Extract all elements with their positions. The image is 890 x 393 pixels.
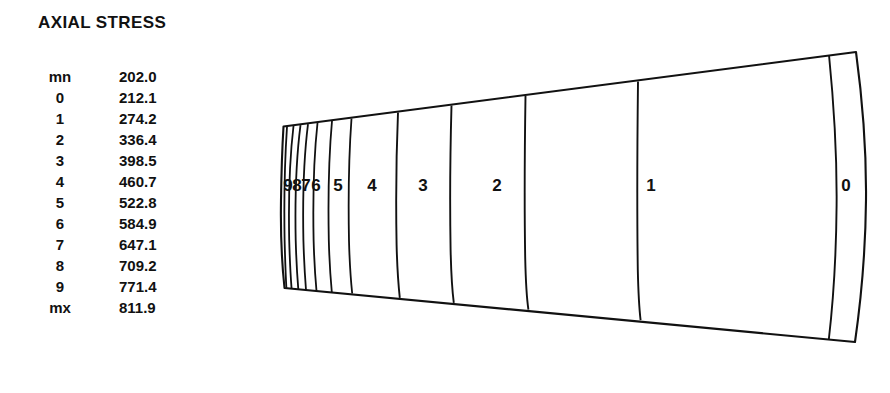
band-label-6: 6 [311, 176, 320, 195]
band-label-7: 7 [301, 176, 310, 195]
band-label-5: 5 [333, 176, 342, 195]
band-label-3: 3 [418, 176, 427, 195]
band-label-1: 1 [646, 176, 655, 195]
screenshot-canvas: AXIAL STRESS mn 202.0 0 212.1 1 274.2 2 … [0, 0, 890, 393]
band-label-4: 4 [367, 176, 377, 195]
wedge-outline [281, 52, 866, 342]
band-label-0: 0 [841, 176, 850, 195]
band-label-2: 2 [492, 176, 501, 195]
contour-plot: 9 8 7 6 5 4 3 2 1 0 [0, 0, 890, 393]
